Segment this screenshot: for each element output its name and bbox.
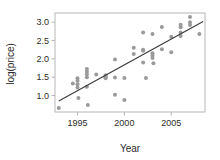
data-point	[179, 25, 183, 29]
data-point	[104, 76, 108, 80]
data-point	[151, 61, 155, 65]
data-point	[76, 85, 80, 89]
y-tick-label: 1.0	[36, 91, 49, 101]
chart-canvas: 1.01.52.02.53.0 199520002005 log(price) …	[0, 0, 220, 160]
data-point	[188, 15, 192, 19]
y-tick-label: 3.0	[36, 17, 49, 27]
y-tick-label: 2.5	[36, 36, 49, 46]
data-point	[132, 46, 136, 50]
x-tick-label: 1995	[67, 118, 87, 128]
data-point	[94, 73, 98, 77]
data-point	[160, 47, 164, 51]
y-axis-title: log(price)	[5, 43, 16, 85]
data-point	[144, 76, 148, 80]
x-axis-title: Year	[120, 143, 141, 154]
data-point	[151, 56, 155, 60]
data-point	[188, 23, 192, 27]
data-point	[113, 76, 117, 80]
chart-background	[0, 0, 220, 160]
data-point	[122, 98, 126, 102]
data-point	[160, 25, 164, 29]
data-point	[57, 106, 61, 110]
x-tick-label: 2005	[161, 118, 181, 128]
data-point	[197, 32, 201, 36]
y-tick-label: 2.0	[36, 54, 49, 64]
data-point	[71, 81, 75, 85]
data-point	[151, 32, 155, 36]
y-tick-label: 1.5	[36, 72, 49, 82]
data-point	[76, 96, 80, 100]
data-point	[169, 50, 173, 54]
data-point	[122, 76, 126, 80]
data-point	[141, 30, 145, 34]
scatter-plot-figure: 1.01.52.02.53.0 199520002005 log(price) …	[0, 0, 220, 160]
x-tick-label: 2000	[114, 118, 134, 128]
data-point	[86, 103, 90, 107]
data-point	[141, 49, 145, 53]
data-point	[141, 61, 145, 65]
data-point	[113, 58, 117, 62]
data-point	[85, 75, 89, 79]
data-point	[113, 93, 117, 97]
data-point	[132, 52, 136, 56]
